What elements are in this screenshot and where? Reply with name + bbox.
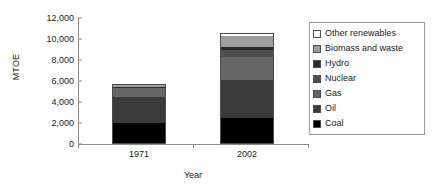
legend-item[interactable]: Other renewables xyxy=(313,26,421,41)
bar-segment[interactable] xyxy=(113,88,165,97)
y-axis-tick-label: 10,000 xyxy=(26,34,74,44)
legend-item[interactable]: Oil xyxy=(313,101,421,116)
x-axis-title: Year xyxy=(78,170,308,180)
legend-swatch-icon xyxy=(313,60,321,68)
legend-item-label: Hydro xyxy=(325,59,349,68)
y-axis-line xyxy=(78,18,79,144)
x-axis-tick-mark xyxy=(193,144,194,148)
x-axis-tick-mark xyxy=(78,144,79,148)
bar-segment[interactable] xyxy=(221,118,273,143)
x-axis-tick-mark xyxy=(308,144,309,148)
y-axis-tick-label: 12,000 xyxy=(26,13,74,23)
legend-item-label: Coal xyxy=(325,119,344,128)
legend-item-label: Nuclear xyxy=(325,74,356,83)
bar-segment[interactable] xyxy=(221,36,273,48)
y-axis-tick-label: 8,000 xyxy=(26,55,74,65)
legend-item-label: Gas xyxy=(325,89,342,98)
legend-swatch-icon xyxy=(313,105,321,113)
legend-item-label: Other renewables xyxy=(325,29,396,38)
legend-item-label: Biomass and waste xyxy=(325,44,403,53)
bar-segment[interactable] xyxy=(113,97,165,123)
bar-column[interactable] xyxy=(220,33,274,144)
x-axis-tick-label: 1971 xyxy=(94,149,184,159)
legend-swatch-icon xyxy=(313,90,321,98)
legend-swatch-icon xyxy=(313,45,321,53)
x-axis-tick-label: 2002 xyxy=(202,149,292,159)
bar-segment[interactable] xyxy=(113,123,165,143)
legend-item[interactable]: Hydro xyxy=(313,56,421,71)
legend-item-label: Oil xyxy=(325,104,336,113)
legend-item[interactable]: Biomass and waste xyxy=(313,41,421,56)
bar-segment[interactable] xyxy=(221,50,273,57)
legend-swatch-icon xyxy=(313,75,321,83)
bar-segment[interactable] xyxy=(221,57,273,80)
legend-swatch-icon xyxy=(313,30,321,38)
y-axis-tick-label: 2,000 xyxy=(26,118,74,128)
y-axis-tick-label: 4,000 xyxy=(26,97,74,107)
y-axis-tick-labels: 02,0004,0006,0008,00010,00012,000 xyxy=(24,0,74,196)
legend-item[interactable]: Coal xyxy=(313,116,421,131)
legend-item[interactable]: Nuclear xyxy=(313,71,421,86)
y-axis-tick-label: 0 xyxy=(26,139,74,149)
chart-container: MTOE 02,0004,0006,0008,00010,00012,000 1… xyxy=(0,0,432,196)
bar-column[interactable] xyxy=(112,84,166,144)
legend-item[interactable]: Gas xyxy=(313,86,421,101)
y-axis-tick-label: 6,000 xyxy=(26,76,74,86)
bar-segment[interactable] xyxy=(221,80,273,118)
legend-swatch-icon xyxy=(313,120,321,128)
y-axis-title: MTOE xyxy=(11,37,21,97)
chart-legend: Other renewablesBiomass and wasteHydroNu… xyxy=(309,22,425,135)
